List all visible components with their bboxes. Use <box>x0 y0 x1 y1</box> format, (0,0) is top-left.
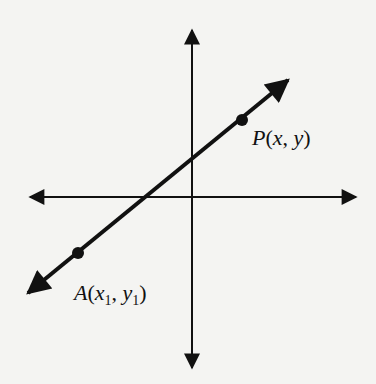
point-A-label: A(x1, y1) <box>72 280 147 308</box>
point-P-dot <box>236 114 248 126</box>
line-through-A-and-P <box>28 80 288 293</box>
coordinate-plane: P(x, y) A(x1, y1) <box>0 0 376 384</box>
diagram-canvas: P(x, y) A(x1, y1) <box>0 0 376 384</box>
point-A-dot <box>72 247 84 259</box>
point-P-label: P(x, y) <box>251 125 311 150</box>
